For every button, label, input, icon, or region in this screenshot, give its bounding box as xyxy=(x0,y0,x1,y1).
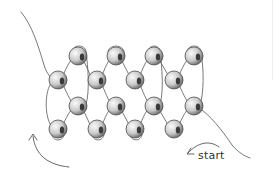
bead-stitch-diagram xyxy=(0,0,275,191)
return-arrow-icon xyxy=(33,136,69,167)
thread-tail-top-left xyxy=(21,12,56,80)
bead xyxy=(126,71,144,89)
bead xyxy=(107,47,125,65)
bead xyxy=(185,97,203,115)
beads-group xyxy=(49,47,203,138)
bead xyxy=(69,47,87,65)
bead xyxy=(165,71,183,89)
bead xyxy=(145,97,163,115)
bead xyxy=(49,71,67,89)
bead xyxy=(165,120,183,138)
bead xyxy=(126,120,144,138)
bead xyxy=(145,47,163,65)
bead xyxy=(49,120,67,138)
start-label: start xyxy=(198,149,225,162)
thread-left-loop xyxy=(46,82,53,128)
bead xyxy=(107,97,125,115)
bead xyxy=(88,71,106,89)
bead xyxy=(69,97,87,115)
bead xyxy=(88,120,106,138)
bead xyxy=(185,47,203,65)
